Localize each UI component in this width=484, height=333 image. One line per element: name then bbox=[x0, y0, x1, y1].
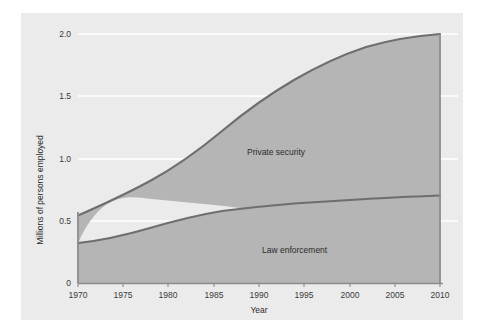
xtick-label-1985: 1985 bbox=[205, 290, 224, 300]
xtick-label-1990: 1990 bbox=[250, 290, 269, 300]
area-band-law-enforcement bbox=[78, 196, 440, 284]
xtick-label-2005: 2005 bbox=[386, 290, 405, 300]
x-axis-title: Year bbox=[250, 305, 267, 315]
xtick-label-1980: 1980 bbox=[159, 290, 178, 300]
xtick-label-1970: 1970 bbox=[69, 290, 88, 300]
x-axis-tick-labels: 1970 1975 1980 1985 1990 1995 2000 2005 … bbox=[69, 290, 450, 300]
y-axis-tick-labels: 0 0.5 1.0 1.5 2.0 bbox=[59, 29, 71, 288]
chart-figure: 1970 1975 1980 1985 1990 1995 2000 2005 … bbox=[0, 0, 484, 333]
ytick-label-2.0: 2.0 bbox=[59, 29, 71, 39]
ytick-label-1.0: 1.0 bbox=[59, 154, 71, 164]
ytick-label-1.5: 1.5 bbox=[59, 91, 71, 101]
ytick-label-0.5: 0.5 bbox=[59, 216, 71, 226]
xtick-label-2000: 2000 bbox=[341, 290, 360, 300]
series-label-private-security: Private security bbox=[247, 147, 306, 157]
xtick-label-2010: 2010 bbox=[431, 290, 450, 300]
ytick-label-0: 0 bbox=[66, 278, 71, 288]
xtick-label-1995: 1995 bbox=[295, 290, 314, 300]
xtick-label-1975: 1975 bbox=[114, 290, 133, 300]
series-label-law-enforcement: Law enforcement bbox=[262, 245, 328, 255]
y-axis-title: Millions of persons employed bbox=[35, 135, 45, 245]
stacked-area-chart: 1970 1975 1980 1985 1990 1995 2000 2005 … bbox=[0, 0, 484, 333]
